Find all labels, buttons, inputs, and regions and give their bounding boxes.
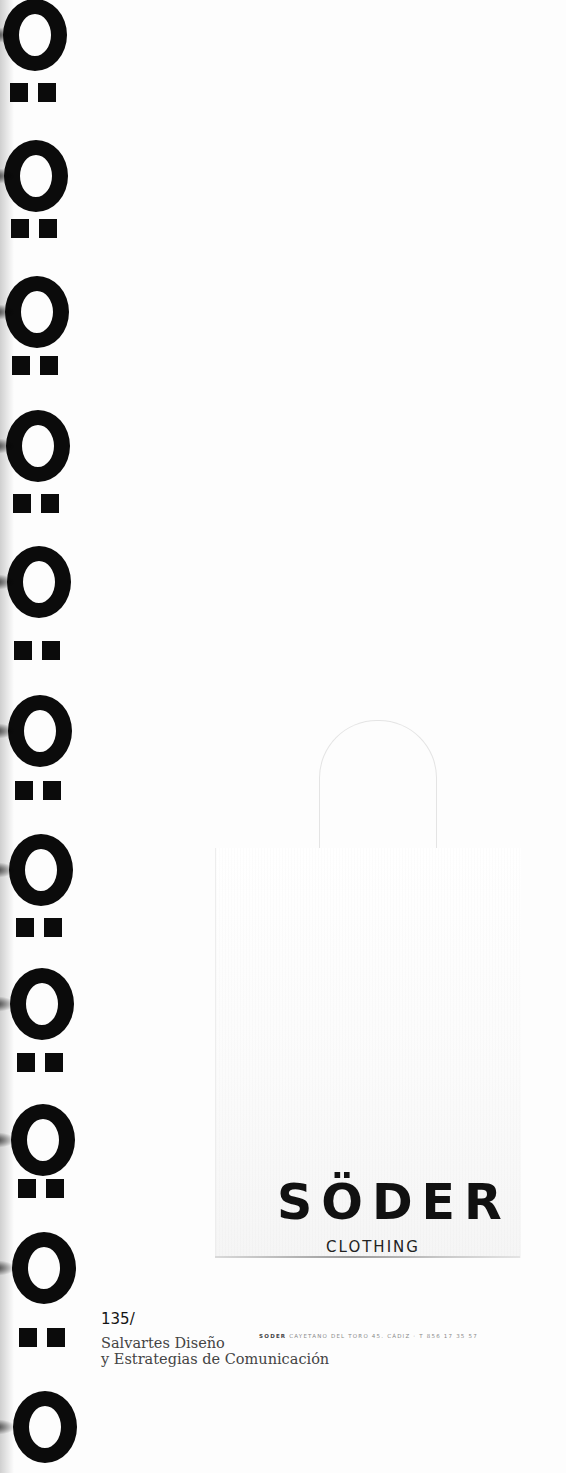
dieresis-square-icon	[18, 1179, 36, 1198]
page-number: 135/	[101, 1310, 329, 1328]
print-smudge	[0, 304, 16, 320]
dieresis-square-icon	[46, 1179, 64, 1198]
studio-name-line-2: y Estrategias de Comunicación	[101, 1351, 329, 1367]
dieresis-square-icon	[39, 219, 57, 238]
brand-subtitle: CLOTHING	[268, 1238, 478, 1256]
shopping-bag: SÖDER CLOTHING SODER CAYETANO DEL TORO 4…	[215, 720, 520, 1260]
ring-dieresis-pattern	[0, 0, 100, 1473]
dieresis-square-icon	[10, 83, 28, 102]
ring-glyph-icon	[7, 546, 71, 618]
dieresis-square-icon	[17, 1053, 35, 1072]
dieresis-square-icon	[15, 781, 33, 800]
print-smudge	[0, 723, 16, 739]
print-smudge	[0, 438, 16, 454]
ring-glyph-icon	[13, 1391, 77, 1463]
dieresis-square-icon	[40, 356, 58, 375]
print-smudge	[0, 1419, 16, 1435]
dieresis-square-icon	[47, 1328, 65, 1347]
dieresis-square-icon	[44, 918, 62, 937]
dieresis-square-icon	[16, 918, 34, 937]
dieresis-square-icon	[42, 641, 60, 660]
dieresis-square-icon	[12, 356, 30, 375]
dieresis-square-icon	[41, 494, 59, 513]
dieresis-square-icon	[11, 219, 29, 238]
print-smudge	[0, 1132, 16, 1148]
studio-name-line-1: Salvartes Diseño	[101, 1335, 329, 1351]
ring-glyph-icon	[8, 695, 72, 767]
print-smudge	[0, 996, 16, 1012]
dieresis-square-icon	[14, 641, 32, 660]
caption: 135/ Salvartes Diseño y Estrategias de C…	[101, 1310, 329, 1367]
ring-glyph-icon	[9, 834, 73, 906]
dieresis-square-icon	[45, 1053, 63, 1072]
brand-name: SÖDER	[268, 1178, 478, 1227]
bag-bottom-edge	[215, 1256, 520, 1258]
brand-wordmark: SÖDER CLOTHING	[268, 1178, 478, 1256]
ring-glyph-icon	[11, 1104, 75, 1176]
bag-body: SÖDER CLOTHING SODER CAYETANO DEL TORO 4…	[215, 848, 521, 1258]
print-smudge	[0, 27, 16, 43]
studio-name: Salvartes Diseño y Estrategias de Comuni…	[101, 1335, 329, 1367]
dieresis-square-icon	[13, 494, 31, 513]
print-smudge	[0, 168, 16, 184]
dieresis-square-icon	[19, 1328, 37, 1347]
ring-glyph-icon	[12, 1232, 76, 1304]
print-smudge	[0, 1260, 16, 1276]
dieresis-square-icon	[38, 83, 56, 102]
print-smudge	[0, 574, 16, 590]
dieresis-square-icon	[43, 781, 61, 800]
ring-glyph-icon	[10, 968, 74, 1040]
print-smudge	[0, 862, 16, 878]
